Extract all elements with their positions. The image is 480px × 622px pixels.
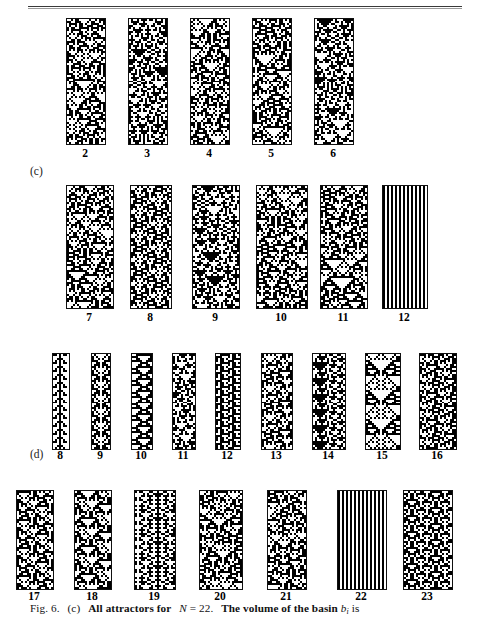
attractor-pattern-9 <box>92 354 110 449</box>
page-top-rule <box>28 6 462 7</box>
attractor-label-6: 6 <box>302 147 364 159</box>
attractor-pattern-4 <box>191 19 229 144</box>
attractor-pattern-8 <box>53 354 69 449</box>
attractor-pattern-23 <box>404 491 452 589</box>
attractor-box-10 <box>131 353 153 450</box>
attractor-box-9 <box>91 353 111 450</box>
attractor-box-8 <box>130 185 172 309</box>
attractor-pattern-17 <box>17 491 53 589</box>
attractor-box-21 <box>267 490 307 590</box>
attractor-pattern-21 <box>268 491 306 589</box>
attractor-box-18 <box>74 490 112 590</box>
attractor-pattern-10 <box>257 186 307 308</box>
attractor-pattern-3 <box>129 19 167 144</box>
attractor-pattern-6 <box>315 19 353 144</box>
attractor-box-10 <box>256 185 308 309</box>
attractor-box-12 <box>215 353 241 450</box>
attractor-box-14 <box>312 353 346 450</box>
attractor-pattern-11 <box>173 354 195 449</box>
caption-text-2: The volume of the basin <box>221 602 338 614</box>
attractor-box-12 <box>382 185 428 309</box>
attractor-box-11 <box>172 353 196 450</box>
caption-equation: = 22. <box>190 602 214 614</box>
attractor-label-19: 19 <box>122 590 186 602</box>
attractor-box-9 <box>192 185 240 309</box>
panel-c-label: (c) <box>30 165 43 177</box>
attractor-label-9: 9 <box>79 449 121 461</box>
attractor-box-5 <box>252 18 292 145</box>
attractor-pattern-19 <box>135 491 175 589</box>
attractor-box-23 <box>403 490 453 590</box>
attractor-box-22 <box>337 490 387 590</box>
attractor-label-10: 10 <box>244 311 318 323</box>
attractor-label-8: 8 <box>118 311 182 323</box>
attractor-pattern-18 <box>75 491 111 589</box>
attractor-label-13: 13 <box>249 449 303 461</box>
figure-page: (c)23456789101112(d)89101112131415161718… <box>0 0 480 622</box>
attractor-box-6 <box>314 18 354 145</box>
attractor-label-3: 3 <box>116 147 178 159</box>
attractor-label-11: 11 <box>160 449 206 461</box>
figure-caption: Fig. 6. (c) All attractors for N = 22. T… <box>30 602 359 616</box>
attractor-box-11 <box>320 185 368 309</box>
attractor-pattern-8 <box>131 186 171 308</box>
attractor-pattern-13 <box>262 354 292 449</box>
attractor-pattern-5 <box>253 19 291 144</box>
attractor-label-5: 5 <box>240 147 302 159</box>
attractor-box-8 <box>52 353 70 450</box>
attractor-label-17: 17 <box>4 590 64 602</box>
attractor-label-2: 2 <box>54 147 116 159</box>
attractor-pattern-14 <box>313 354 345 449</box>
attractor-label-10: 10 <box>119 449 163 461</box>
caption-math-n: N <box>179 602 187 614</box>
attractor-label-22: 22 <box>325 590 397 602</box>
attractor-label-11: 11 <box>308 311 378 323</box>
attractor-pattern-12 <box>383 186 427 308</box>
attractor-box-4 <box>190 18 230 145</box>
attractor-pattern-2 <box>67 19 105 144</box>
attractor-pattern-22 <box>338 491 386 589</box>
attractor-box-3 <box>128 18 168 145</box>
attractor-label-20: 20 <box>187 590 253 602</box>
caption-math-b-subscript: i <box>346 607 348 616</box>
attractor-box-16 <box>419 353 457 450</box>
attractor-label-12: 12 <box>370 311 438 323</box>
attractor-label-21: 21 <box>255 590 317 602</box>
caption-text-3: is <box>352 602 360 614</box>
page-top-rule-shadow <box>28 8 462 9</box>
attractor-box-20 <box>199 490 243 590</box>
attractor-box-13 <box>261 353 293 450</box>
attractor-label-7: 7 <box>54 311 124 323</box>
attractor-box-7 <box>66 185 114 309</box>
caption-text-1: All attractors for <box>88 602 171 614</box>
attractor-pattern-9 <box>193 186 239 308</box>
attractor-pattern-12 <box>216 354 240 449</box>
attractor-label-23: 23 <box>391 590 463 602</box>
attractor-pattern-10 <box>132 354 152 449</box>
attractor-pattern-16 <box>420 354 456 449</box>
attractor-label-8: 8 <box>40 449 80 461</box>
attractor-label-4: 4 <box>178 147 240 159</box>
attractor-label-16: 16 <box>407 449 467 461</box>
attractor-pattern-7 <box>67 186 113 308</box>
attractor-label-18: 18 <box>62 590 122 602</box>
attractor-box-17 <box>16 490 54 590</box>
attractor-label-15: 15 <box>353 449 411 461</box>
caption-figure-number: Fig. 6. <box>30 602 60 614</box>
attractor-box-15 <box>365 353 401 450</box>
attractor-pattern-15 <box>366 354 400 449</box>
attractor-label-12: 12 <box>203 449 251 461</box>
attractor-box-19 <box>134 490 176 590</box>
attractor-pattern-11 <box>321 186 367 308</box>
attractor-label-9: 9 <box>180 311 250 323</box>
caption-part-letter: (c) <box>68 602 81 614</box>
attractor-label-14: 14 <box>300 449 356 461</box>
attractor-box-2 <box>66 18 106 145</box>
attractor-pattern-20 <box>200 491 242 589</box>
